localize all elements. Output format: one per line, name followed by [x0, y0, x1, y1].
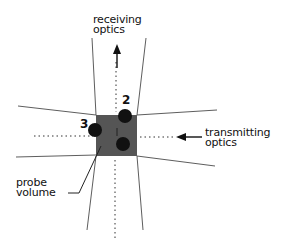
- particle-1: [116, 137, 130, 151]
- transmit-beam-edge-lower-right: [137, 156, 215, 166]
- diagram-graphics: [0, 0, 284, 246]
- receiving-optics-label: receiving optics: [93, 15, 142, 35]
- transmit-beam-edge-upper-right: [137, 110, 217, 115]
- transmit-beam-edge-upper-left: [18, 106, 96, 115]
- transmit-beam-edge-lower-left: [16, 155, 96, 157]
- receiving-beam-edge-right-top: [137, 38, 146, 115]
- receiving-label-line2: optics: [93, 25, 142, 35]
- probe-volume-diagram: receiving optics transmitting optics pro…: [0, 0, 284, 246]
- transmitting-optics-label: transmitting optics: [205, 128, 270, 148]
- particle-2-number: 2: [122, 93, 130, 107]
- particle-2: [118, 109, 132, 123]
- receiving-beam-edge-left-top: [92, 38, 96, 115]
- probe-label-line2: volume: [16, 188, 56, 198]
- receiving-arrow-head-icon: [113, 44, 121, 54]
- receiving-beam-edge-right-bottom: [137, 156, 143, 230]
- particle-3: [88, 123, 102, 137]
- transmit-arrow-head-icon: [176, 133, 186, 141]
- transmitting-label-line2: optics: [205, 138, 270, 148]
- particle-3-number: 3: [80, 117, 88, 131]
- probe-volume-label: probe volume: [16, 178, 56, 198]
